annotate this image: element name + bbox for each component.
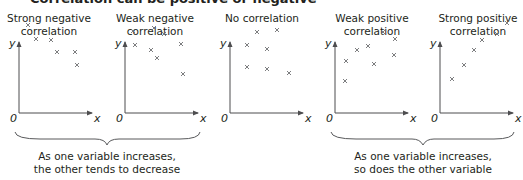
cross-marker-icon [149,48,153,52]
cross-marker-icon [275,28,279,32]
x-axis-label: x [514,112,522,125]
cross-marker-icon [450,77,454,81]
cross-marker-icon [472,48,476,52]
cross-marker-icon [255,30,259,34]
cross-marker-icon [49,38,53,42]
cross-marker-icon [133,43,137,47]
cross-marker-icon [287,71,291,75]
correlation-diagram: Correlation can be positive or negative … [0,0,523,180]
cross-marker-icon [265,67,269,71]
y-axis-label: y [8,37,16,50]
y-axis-label: y [114,37,122,50]
cross-marker-icon [344,59,348,63]
cross-marker-icon [343,79,347,83]
y-axis-label: y [219,37,227,50]
cross-marker-icon [372,62,376,66]
y-axis-label: y [324,37,332,50]
origin-label: 0 [221,112,228,125]
origin-label: 0 [326,112,333,125]
scatter-graph-none: yx0 [219,28,312,125]
cross-marker-icon [480,38,484,42]
scatter-graph-strong-negative: yx0 [8,23,101,125]
cross-marker-icon [393,37,397,41]
cross-marker-icon [245,65,249,69]
origin-label: 0 [116,112,123,125]
caption-line: the other tends to decrease [0,163,217,176]
scatter-graph-strong-positive: yx0 [429,21,522,125]
cross-marker-icon [75,63,79,67]
cross-marker-icon [505,21,509,25]
caption-negative: As one variable increases, the other ten… [0,150,217,176]
y-axis-label: y [429,37,437,50]
cross-marker-icon [152,26,156,30]
x-axis-label: x [304,112,312,125]
cross-marker-icon [462,63,466,67]
cross-marker-icon [26,23,30,27]
scatter-graph-weak-negative: yx0 [114,26,207,125]
caption-positive: As one variable increases, so does the o… [313,150,523,176]
cross-marker-icon [179,42,183,46]
cross-marker-icon [381,30,385,34]
cross-marker-icon [34,37,38,41]
cross-marker-icon [495,32,499,36]
cross-marker-icon [392,53,396,57]
caption-line: As one variable increases, [0,150,217,163]
cross-marker-icon [55,50,59,54]
cross-marker-icon [131,29,135,33]
cross-marker-icon [181,72,185,76]
cross-marker-icon [155,56,159,60]
cross-marker-icon [355,48,359,52]
x-axis-label: x [93,112,101,125]
brace-positive [331,132,514,145]
brace-negative [15,132,200,145]
x-axis-label: x [409,112,417,125]
caption-line: As one variable increases, [313,150,523,163]
origin-label: 0 [431,112,438,125]
x-axis-label: x [199,112,207,125]
cross-marker-icon [245,43,249,47]
cross-marker-icon [265,47,269,51]
caption-line: so does the other variable [313,163,523,176]
cross-marker-icon [73,50,77,54]
cross-marker-icon [162,32,166,36]
origin-label: 0 [10,112,17,125]
cross-marker-icon [366,44,370,48]
scatter-graph-weak-positive: yx0 [324,30,417,125]
